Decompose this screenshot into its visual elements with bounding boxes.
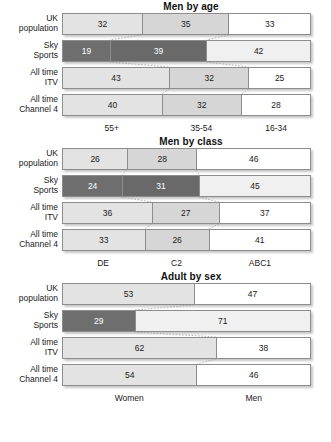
chart-axis: DEC2ABC1: [0, 257, 331, 270]
bar-segment: 54: [63, 365, 196, 385]
bar-segment: 32: [162, 95, 241, 115]
stacked-bar: 433225: [62, 67, 311, 89]
stacked-bar: 5446: [62, 364, 311, 386]
chart-rows: UKpopulation323533SkySports193942All tim…: [0, 13, 331, 121]
axis-label: DE: [97, 257, 109, 270]
row-label: UKpopulation: [0, 13, 62, 33]
chart-rows: UKpopulation262846SkySports243145All tim…: [0, 148, 331, 256]
chart-block: Men by classUKpopulation262846SkySports2…: [0, 135, 331, 270]
bar-segment: 31: [122, 176, 199, 196]
bar-segment: 45: [199, 176, 310, 196]
stacked-bar: 193942: [62, 40, 311, 62]
bar-segment: 36: [63, 203, 152, 223]
bar-segment: 39: [110, 41, 206, 61]
bar-segment: 42: [206, 41, 310, 61]
row-label-line: ITV: [0, 78, 58, 88]
bar-segment: 46: [196, 149, 310, 169]
axis-label: Men: [245, 392, 262, 405]
stacked-bar: 262846: [62, 148, 311, 170]
row-label-line: population: [0, 24, 58, 34]
row-label-line: Sports: [0, 186, 58, 196]
axis-labels: 55+35-5416-34: [62, 122, 311, 135]
bar-segment: 62: [63, 338, 216, 358]
row-label: All timeChannel 4: [0, 229, 62, 249]
axis-spacer: [0, 122, 62, 135]
axis-label: 35-54: [191, 122, 213, 135]
row-label: All timeChannel 4: [0, 364, 62, 384]
axis-label: ABC1: [249, 257, 271, 270]
charts-container: Men by ageUKpopulation323533SkySports193…: [0, 0, 331, 405]
bar-segment: 38: [216, 338, 310, 358]
axis-spacer: [0, 257, 62, 270]
row-label: SkySports: [0, 175, 62, 195]
chart-row-all-time-itv: All timeITV433225: [0, 67, 331, 94]
stacked-bar-chart-figure: Men by ageUKpopulation323533SkySports193…: [0, 0, 331, 442]
bar-segment: 47: [194, 284, 310, 304]
chart-axis: WomenMen: [0, 392, 331, 405]
row-label-line: ITV: [0, 348, 58, 358]
stacked-bar: 5347: [62, 283, 311, 305]
chart-row-sky-sports: SkySports243145: [0, 175, 331, 202]
row-label: UKpopulation: [0, 283, 62, 303]
chart-row-uk-population: UKpopulation262846: [0, 148, 331, 175]
bar-segment: 41: [209, 230, 310, 250]
chart-row-all-time-itv: All timeITV6238: [0, 337, 331, 364]
bar-segment: 33: [228, 14, 310, 34]
bar-segment: 53: [63, 284, 194, 304]
row-label: SkySports: [0, 310, 62, 330]
chart-block: Adult by sexUKpopulation5347SkySports297…: [0, 270, 331, 405]
bar-segment: 35: [142, 14, 228, 34]
bar-segment: 25: [248, 68, 310, 88]
axis-spacer: [0, 392, 62, 405]
bar-segment: 28: [127, 149, 196, 169]
stacked-bar: 243145: [62, 175, 311, 197]
row-label: SkySports: [0, 40, 62, 60]
bar-segment: 28: [241, 95, 310, 115]
stacked-bar: 403228: [62, 94, 311, 116]
row-label-line: Channel 4: [0, 375, 58, 385]
chart-axis: 55+35-5416-34: [0, 122, 331, 135]
bar-segment: 32: [63, 14, 142, 34]
bar-segment: 26: [145, 230, 209, 250]
bar-segment: 27: [152, 203, 219, 223]
row-label-line: Channel 4: [0, 105, 58, 115]
chart-row-all-time-channel-4: All timeChannel 45446: [0, 364, 331, 391]
bar-segment: 43: [63, 68, 169, 88]
stacked-bar: 323533: [62, 13, 311, 35]
chart-row-all-time-itv: All timeITV362737: [0, 202, 331, 229]
bar-segment: 19: [63, 41, 110, 61]
stacked-bar: 362737: [62, 202, 311, 224]
chart-row-uk-population: UKpopulation5347: [0, 283, 331, 310]
axis-label: Women: [115, 392, 144, 405]
row-label-line: population: [0, 294, 58, 304]
bar-segment: 32: [169, 68, 248, 88]
chart-title: Adult by sex: [0, 270, 331, 283]
row-label: All timeITV: [0, 202, 62, 222]
row-label: UKpopulation: [0, 148, 62, 168]
row-label: All timeChannel 4: [0, 94, 62, 114]
chart-row-uk-population: UKpopulation323533: [0, 13, 331, 40]
row-label-line: ITV: [0, 213, 58, 223]
row-label: All timeITV: [0, 67, 62, 87]
axis-labels: DEC2ABC1: [62, 257, 311, 270]
chart-title: Men by class: [0, 135, 331, 148]
row-label-line: Channel 4: [0, 240, 58, 250]
row-label: All timeITV: [0, 337, 62, 357]
bar-segment: 29: [63, 311, 135, 331]
stacked-bar: 6238: [62, 337, 311, 359]
bar-segment: 46: [196, 365, 310, 385]
chart-title: Men by age: [0, 0, 331, 13]
chart-row-sky-sports: SkySports2971: [0, 310, 331, 337]
axis-label: 55+: [105, 122, 119, 135]
bar-segment: 33: [63, 230, 145, 250]
row-label-line: Sports: [0, 51, 58, 61]
stacked-bar: 332641: [62, 229, 311, 251]
axis-label: 16-34: [265, 122, 287, 135]
row-label-line: population: [0, 159, 58, 169]
bar-segment: 37: [219, 203, 310, 223]
bar-segment: 40: [63, 95, 162, 115]
chart-row-all-time-channel-4: All timeChannel 4403228: [0, 94, 331, 121]
bar-segment: 26: [63, 149, 127, 169]
axis-label: C2: [171, 257, 182, 270]
chart-rows: UKpopulation5347SkySports2971All timeITV…: [0, 283, 331, 391]
